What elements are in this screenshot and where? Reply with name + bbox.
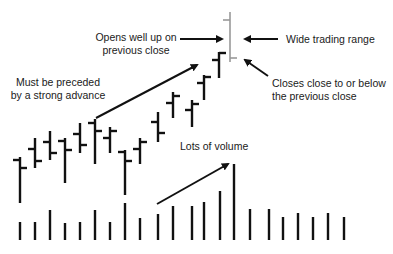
label-line: Wide trading range (286, 33, 375, 45)
label-line: Must be preceded (8, 76, 108, 89)
label-line: Lots of volume (180, 140, 248, 152)
volume-bars (20, 164, 344, 240)
label-opens-up: Opens well up on previous close (88, 31, 184, 57)
chart-diagram: Opens well up on previous close Wide tra… (0, 0, 393, 254)
label-line: by a strong advance (8, 89, 108, 102)
label-closes-close: Closes close to or below the previous cl… (272, 77, 386, 103)
arrow-closes-close (245, 60, 268, 76)
label-line: previous close (88, 44, 184, 57)
label-wide-range: Wide trading range (286, 33, 375, 46)
label-line: the previous close (272, 90, 386, 103)
label-line: Closes close to or below (272, 77, 386, 90)
label-line: Opens well up on (88, 31, 184, 44)
arrow-strong-advance (96, 65, 197, 118)
arrow-volume (157, 164, 228, 204)
label-volume: Lots of volume (180, 140, 248, 153)
label-preceded: Must be preceded by a strong advance (8, 76, 108, 102)
